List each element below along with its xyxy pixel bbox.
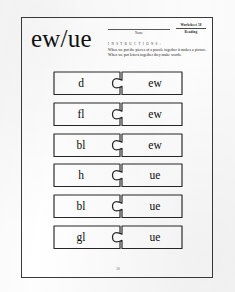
puzzle-row: flew bbox=[50, 101, 186, 128]
puzzle-pair-shape bbox=[50, 101, 186, 128]
rime-piece-shape[interactable] bbox=[113, 103, 183, 126]
puzzle-pair-shape bbox=[50, 132, 186, 159]
puzzle-pair-shape bbox=[50, 162, 186, 189]
instructions-text: When we put the pieces of a puzzle toget… bbox=[108, 48, 208, 58]
rime-piece-shape[interactable] bbox=[113, 72, 183, 95]
instructions-heading: I N S T R U C T I O N S : bbox=[108, 42, 208, 46]
worksheet-number-label: Worksheet 58 bbox=[174, 23, 208, 28]
rime-piece-shape[interactable] bbox=[113, 134, 183, 157]
puzzle-row: glue bbox=[50, 224, 186, 251]
page-title: ew/ue bbox=[31, 24, 92, 54]
worksheet-page: ew/ue Name Worksheet 58 Reading I N S T … bbox=[21, 17, 213, 278]
scanned-worksheet-image: ew/ue Name Worksheet 58 Reading I N S T … bbox=[0, 0, 235, 292]
rime-piece-shape[interactable] bbox=[113, 195, 183, 218]
puzzle-row: blew bbox=[50, 132, 186, 159]
puzzle-row: blue bbox=[50, 193, 186, 220]
rime-piece-shape[interactable] bbox=[113, 164, 183, 187]
name-field-block: Name bbox=[108, 25, 170, 36]
name-label: Name bbox=[108, 31, 170, 36]
page-number: 58 bbox=[22, 267, 214, 272]
worksheet-subject-label: Reading bbox=[174, 30, 208, 35]
rime-piece-shape[interactable] bbox=[113, 226, 183, 249]
puzzle-rows-container: dewflewblewhueblueglue bbox=[22, 70, 214, 270]
puzzle-pair-shape bbox=[50, 193, 186, 220]
puzzle-row: dew bbox=[50, 70, 186, 97]
worksheet-meta: Worksheet 58 Reading bbox=[174, 23, 208, 34]
puzzle-pair-shape bbox=[50, 224, 186, 251]
puzzle-pair-shape bbox=[50, 70, 186, 97]
puzzle-row: hue bbox=[50, 162, 186, 189]
name-write-line[interactable] bbox=[108, 29, 170, 30]
instructions-block: I N S T R U C T I O N S : When we put th… bbox=[108, 42, 208, 58]
